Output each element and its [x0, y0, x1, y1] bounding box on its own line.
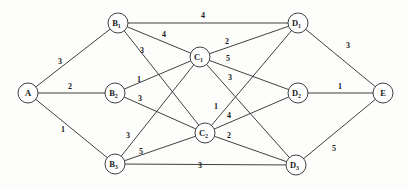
graph-node-d1: D1 — [288, 13, 308, 33]
node-label-subscript: 3 — [296, 165, 299, 171]
graph-node-d2: D2 — [288, 83, 308, 103]
graph-node-b2: B2 — [105, 83, 125, 103]
node-label: A — [25, 88, 32, 98]
edge-weight-label: 2 — [227, 131, 231, 140]
graph-edge — [36, 99, 108, 157]
edge-weight-label: 4 — [227, 111, 231, 120]
edge-weight-label: 1 — [61, 125, 65, 134]
node-label-subscript: 1 — [200, 57, 203, 63]
edge-weight-label: 4 — [162, 30, 166, 39]
edge-weight-label: 3 — [198, 161, 202, 170]
edge-weight-label: 3 — [346, 41, 350, 50]
node-label-subscript: 3 — [115, 164, 118, 170]
edge-weight-label: 3 — [138, 94, 142, 103]
node-label: E — [380, 88, 386, 98]
edge-weight-label: 3 — [126, 131, 130, 140]
graph-node-c1: C1 — [190, 47, 210, 67]
graph-edge — [124, 31, 199, 125]
graph-node-b3: B3 — [105, 154, 125, 174]
edge-weight-label: 5 — [139, 147, 143, 156]
graph-edge — [209, 60, 288, 89]
edges-layer — [36, 23, 376, 165]
graph-edge — [124, 61, 191, 89]
graph-edge — [209, 26, 288, 53]
node-label-subscript: 1 — [118, 23, 121, 29]
node-label-subscript: 1 — [298, 23, 301, 29]
graph-edge — [304, 99, 376, 158]
node-label-text: E — [380, 88, 386, 98]
edge-weight-label: 4 — [201, 11, 205, 20]
edge-weight-label: 2 — [225, 37, 229, 46]
graph-node-e: E — [373, 83, 393, 103]
node-label-subscript: 2 — [205, 133, 208, 139]
edge-weight-label: 1 — [338, 82, 342, 91]
graph-edge — [207, 64, 290, 157]
graph-node-c2: C2 — [195, 123, 215, 143]
graph-edge — [306, 29, 376, 86]
edge-weight-label: 3 — [58, 57, 62, 66]
edge-weight-label: 3 — [228, 73, 232, 82]
graph-edge — [124, 97, 196, 129]
graph-edge — [121, 65, 194, 156]
node-label-subscript: 2 — [298, 93, 301, 99]
edge-weight-label: 1 — [137, 75, 141, 84]
node-label-text: A — [25, 88, 32, 98]
nodes-layer: AB1B2B3C1C2D1D2D3E — [18, 13, 393, 175]
graph-edge — [125, 164, 286, 165]
graph-edge — [124, 136, 195, 160]
graph-edge — [211, 31, 291, 126]
node-label-subscript: 2 — [115, 93, 118, 99]
edge-weight-label: 5 — [226, 54, 230, 63]
edge-weight-label: 1 — [214, 102, 218, 111]
graph-edge — [127, 27, 191, 53]
graph-diagram: AB1B2B3C1C2D1D2D3E 32144313353253142315 — [0, 0, 409, 190]
edge-weight-label: 2 — [68, 82, 72, 91]
graph-edge — [214, 97, 289, 129]
graph-edge — [36, 29, 110, 87]
graph-node-b1: B1 — [108, 13, 128, 33]
edge-weight-label: 5 — [332, 144, 336, 153]
graph-edge — [214, 136, 286, 161]
graph-canvas: AB1B2B3C1C2D1D2D3E 32144313353253142315 — [0, 0, 409, 190]
edge-weight-label: 3 — [140, 46, 144, 55]
graph-node-a: A — [18, 83, 38, 103]
graph-node-d3: D3 — [286, 155, 306, 175]
